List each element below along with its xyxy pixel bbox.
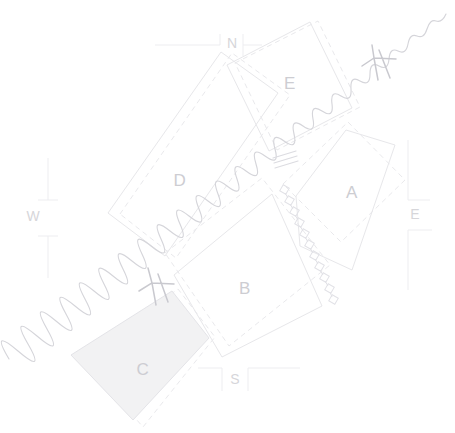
break-mark-mid [273,151,298,168]
parcel-D-outline [108,52,278,256]
chain-of-squares-line [280,185,339,305]
dimension-north-line [155,34,262,56]
watercourse-path [1,14,446,361]
dimension-west-line [38,158,58,278]
parcel-plan-svg: A B C D E N S E W [0,0,455,433]
break-mark-ne [362,45,396,80]
dimension-label-east: E [410,206,419,222]
diagram-canvas: A B C D E N S E W [0,0,455,433]
dimension-label-south: S [230,371,239,387]
break-mark-mid-glyph [273,151,298,168]
parcel-label-E: E [284,74,296,93]
dimension-south-line [198,368,300,391]
dimension-west [38,158,58,278]
chain-square [280,185,339,305]
break-mark-ne-glyph [362,45,396,80]
wavy-watercourse-line [1,14,446,361]
dimension-south [198,368,300,391]
parcel-label-B: B [239,279,251,298]
parcel-C[interactable] [71,289,215,427]
dimension-north [155,34,262,56]
parcel-label-A: A [346,183,358,202]
parcel-C-shaded-area [71,291,209,420]
dimension-label-west: W [26,208,40,224]
parcel-label-D: D [174,171,187,190]
dimension-label-north: N [227,35,237,51]
parcel-label-C: C [137,360,150,379]
parcel-A[interactable] [283,122,405,270]
parcel-A-dashed-outline [283,122,405,242]
